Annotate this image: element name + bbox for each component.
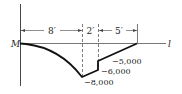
- moment-axis-label: M: [10, 39, 21, 49]
- value-label-6000: −6,000: [101, 67, 131, 76]
- moment-diagram: 8′ 2′ 5′ M l −5,000 −6,000 −8,000: [0, 0, 182, 94]
- value-label-5000: −5,000: [112, 57, 142, 66]
- dimension-label-5ft: 5′: [115, 26, 123, 36]
- diagram-canvas: 8′ 2′ 5′ M l −5,000 −6,000 −8,000: [0, 0, 182, 94]
- dimension-label-8ft: 8′: [48, 26, 56, 36]
- length-axis-label: l: [168, 39, 171, 49]
- dimension-label-2ft: 2′: [87, 26, 95, 36]
- value-label-8000: −8,000: [84, 78, 114, 87]
